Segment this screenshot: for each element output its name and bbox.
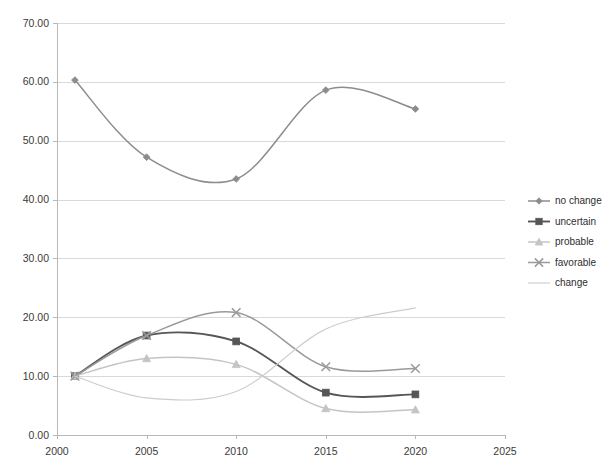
data-point-marker-square	[322, 389, 329, 396]
legend-marker-square-icon	[536, 218, 542, 224]
y-axis-tick-label: 10.00	[23, 370, 49, 382]
series-line	[75, 357, 415, 412]
x-axis-tick-label: 2000	[45, 445, 69, 457]
x-axis-tick-label: 2025	[493, 445, 517, 457]
legend-item-favorable[interactable]: favorable	[528, 257, 597, 268]
x-axis-tick-label: 2020	[404, 445, 428, 457]
y-axis-tick-label: 60.00	[23, 75, 49, 87]
data-point-marker-diamond	[233, 176, 240, 183]
legend-item-label: probable	[555, 236, 594, 247]
legend-marker-diamond-icon	[536, 198, 542, 204]
y-axis-tick-label: 20.00	[23, 311, 49, 323]
y-axis-tick-label: 0.00	[29, 429, 50, 441]
line-chart: 0.0010.0020.0030.0040.0050.0060.0070.00 …	[0, 0, 616, 468]
series-change	[75, 308, 415, 400]
legend-item-uncertain[interactable]: uncertain	[528, 216, 596, 227]
data-point-marker-diamond	[412, 106, 419, 113]
legend-item-probable[interactable]: probable	[528, 236, 594, 247]
y-axis-tick-label: 50.00	[23, 134, 49, 146]
data-point-marker-square	[412, 391, 419, 398]
x-axis-tick-label: 2010	[225, 445, 249, 457]
y-axis-tick-label: 40.00	[23, 193, 49, 205]
series-probable	[71, 354, 419, 412]
data-point-marker-square	[233, 338, 240, 345]
gridlines	[57, 24, 505, 436]
series-line	[75, 308, 415, 400]
series-uncertain	[72, 332, 419, 398]
series-no-change	[72, 77, 419, 183]
legend-item-label: no change	[555, 195, 602, 206]
y-axis-tick-label: 30.00	[23, 252, 49, 264]
chart-canvas: 0.0010.0020.0030.0040.0050.0060.0070.00 …	[0, 0, 616, 468]
legend: no changeuncertainprobablefavorablechang…	[528, 195, 602, 288]
y-axis-tick-labels: 0.0010.0020.0030.0040.0050.0060.0070.00	[23, 17, 49, 441]
x-axis-tick-labels: 200020052010201520202025	[45, 445, 517, 457]
data-series	[71, 77, 420, 413]
data-point-marker-cross	[322, 362, 331, 371]
legend-item-label: uncertain	[555, 216, 596, 227]
y-axis-tick-label: 70.00	[23, 17, 49, 29]
legend-item-change[interactable]: change	[528, 277, 588, 288]
series-line	[75, 80, 415, 183]
x-axis-tick-label: 2015	[314, 445, 338, 457]
data-point-marker-diamond	[322, 87, 329, 94]
legend-item-no-change[interactable]: no change	[528, 195, 602, 206]
legend-item-label: favorable	[555, 257, 597, 268]
x-axis-tick-label: 2005	[135, 445, 159, 457]
legend-item-label: change	[555, 277, 588, 288]
